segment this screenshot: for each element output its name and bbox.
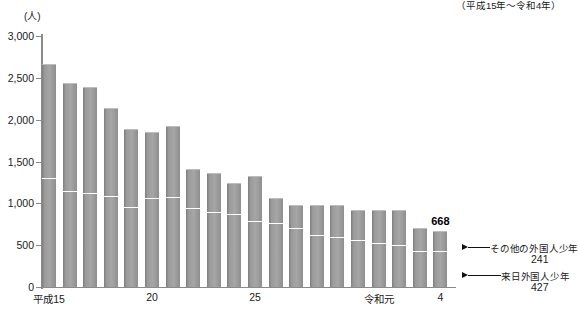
x-axis-label: 令和元 <box>364 291 394 306</box>
y-axis-tick <box>36 78 42 79</box>
bar-segment-visiting-foreign-youth <box>207 212 221 287</box>
y-axis-tick-label: 500 <box>16 239 34 251</box>
bar-3 <box>413 228 427 287</box>
bar-19 <box>124 129 138 287</box>
x-axis-line <box>41 287 456 288</box>
x-axis-label: 20 <box>146 291 158 303</box>
x-axis-label: 4 <box>437 291 443 303</box>
y-axis-tick <box>36 287 42 288</box>
bar-segment-visiting-foreign-youth <box>413 251 427 287</box>
callout-top-series-value: 241 <box>531 253 549 265</box>
bar-segment-other-foreign-youth <box>289 205 303 228</box>
bar-segment-other-foreign-youth <box>227 183 241 214</box>
period-note: （平成15年～令和4年） <box>456 0 561 12</box>
bar-2 <box>392 210 406 287</box>
bar-26 <box>269 198 283 287</box>
bar-segment-visiting-foreign-youth <box>42 178 56 287</box>
bar-segment-other-foreign-youth <box>310 205 324 235</box>
bar-segment-visiting-foreign-youth <box>124 207 138 287</box>
y-axis-tick-label: 2,500 <box>8 72 34 84</box>
bar-17 <box>83 87 97 287</box>
bar-4 <box>433 231 447 287</box>
bar-25 <box>248 176 262 287</box>
bar-18 <box>104 108 118 287</box>
bar-segment-visiting-foreign-youth <box>186 208 200 287</box>
callout-bottom-series-value: 427 <box>531 281 549 293</box>
bar-23 <box>207 173 221 287</box>
bar-平成15 <box>42 64 56 287</box>
total-data-label: 668 <box>431 215 449 227</box>
x-axis-label: 平成15 <box>33 291 65 306</box>
bar-21 <box>166 126 180 287</box>
bar-segment-other-foreign-youth <box>63 83 77 191</box>
y-axis-tick-label: 1,500 <box>8 156 34 168</box>
y-axis-tick-label: 2,000 <box>8 114 34 126</box>
bar-segment-visiting-foreign-youth <box>330 237 344 287</box>
bar-segment-other-foreign-youth <box>372 210 386 243</box>
callout-leader-top <box>468 247 490 248</box>
bar-令和元 <box>372 210 386 287</box>
bar-segment-visiting-foreign-youth <box>83 193 97 287</box>
bar-segment-other-foreign-youth <box>186 169 200 207</box>
bar-segment-other-foreign-youth <box>269 198 283 224</box>
bar-segment-visiting-foreign-youth <box>289 228 303 287</box>
bar-16 <box>63 83 77 287</box>
bar-27 <box>289 205 303 287</box>
bar-segment-visiting-foreign-youth <box>248 221 262 287</box>
bar-22 <box>186 169 200 287</box>
bar-segment-other-foreign-youth <box>124 129 138 206</box>
bar-segment-other-foreign-youth <box>166 126 180 198</box>
bar-segment-other-foreign-youth <box>104 108 118 196</box>
y-axis-tick <box>36 36 42 37</box>
bar-segment-visiting-foreign-youth <box>63 191 77 287</box>
bar-segment-visiting-foreign-youth <box>145 198 159 287</box>
y-axis-tick-group: 3,0002,5002,0001,5001,0005000 <box>0 0 34 315</box>
plot-area <box>42 36 454 287</box>
bar-segment-other-foreign-youth <box>145 132 159 198</box>
y-axis-tick-label: 1,000 <box>8 197 34 209</box>
bar-segment-other-foreign-youth <box>330 205 344 236</box>
bar-segment-visiting-foreign-youth <box>372 243 386 287</box>
callout-leader-bottom <box>468 275 501 276</box>
bar-segment-other-foreign-youth <box>413 228 427 251</box>
bar-segment-other-foreign-youth <box>83 87 97 193</box>
y-axis-tick <box>36 203 42 204</box>
bar-28 <box>310 205 324 287</box>
y-axis-tick <box>36 120 42 121</box>
bar-segment-visiting-foreign-youth <box>104 196 118 287</box>
bar-segment-visiting-foreign-youth <box>227 214 241 287</box>
bar-segment-visiting-foreign-youth <box>351 240 365 287</box>
bar-segment-visiting-foreign-youth <box>310 235 324 287</box>
bar-segment-other-foreign-youth <box>433 231 447 251</box>
bar-segment-visiting-foreign-youth <box>433 251 447 287</box>
bar-segment-other-foreign-youth <box>351 210 365 240</box>
bar-29 <box>330 205 344 287</box>
bar-segment-visiting-foreign-youth <box>269 223 283 287</box>
bar-segment-other-foreign-youth <box>248 176 262 221</box>
y-axis-tick-label: 3,000 <box>8 30 34 42</box>
bar-30 <box>351 210 365 287</box>
bar-segment-visiting-foreign-youth <box>166 197 180 287</box>
x-axis-label: 25 <box>249 291 261 303</box>
y-axis-tick <box>36 245 42 246</box>
bar-20 <box>145 132 159 287</box>
bar-24 <box>227 183 241 287</box>
bar-segment-other-foreign-youth <box>392 210 406 246</box>
bar-segment-other-foreign-youth <box>207 173 221 211</box>
bar-segment-visiting-foreign-youth <box>392 245 406 287</box>
bar-segment-other-foreign-youth <box>42 64 56 178</box>
y-axis-tick <box>36 162 42 163</box>
